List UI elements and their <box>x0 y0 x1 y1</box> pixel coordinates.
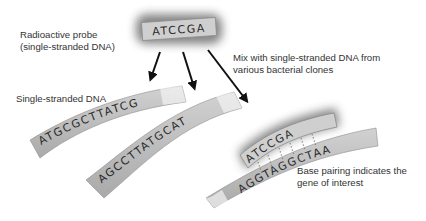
base-pairing-label: Base pairing indicates the gene of inter… <box>297 165 407 188</box>
radioactive-probe: ATCCGA <box>136 14 222 44</box>
arrow-icon <box>151 52 160 78</box>
svg-text:AGCCTTATGCAT: AGCCTTATGCAT <box>96 114 190 186</box>
probe-label: Radioactive probe (single-stranded DNA) <box>20 29 115 52</box>
mix-label: Mix with single-stranded DNA from variou… <box>233 52 380 75</box>
arrow-icon <box>183 52 194 87</box>
strand-2-sequence: AGCCTTATGCAT <box>96 114 190 186</box>
single-stranded-dna-label: Single-stranded DNA <box>16 93 106 105</box>
